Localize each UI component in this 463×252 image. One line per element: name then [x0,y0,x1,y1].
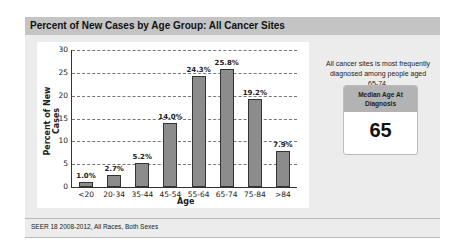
bar [135,163,149,187]
median-age-label: Median Age At Diagnosis [344,86,417,112]
y-tick-label: 5 [56,159,68,168]
bar-value-label: 7.9% [266,141,300,149]
bar [79,182,93,187]
bar-value-label: 5.2% [125,153,159,161]
x-tick-label: >84 [266,190,300,199]
footer: SEER 18 2008-2012, All Races, Both Sexes [25,218,440,238]
footer-source: SEER 18 2008-2012, All Races, Both Sexes [31,223,158,230]
y-tick-label: 15 [56,114,68,123]
y-tick-label: 25 [56,68,68,77]
median-age-box: Median Age At Diagnosis 65 [343,85,418,155]
gridline [72,141,297,142]
median-age-value: 65 [344,119,417,142]
bar [163,123,177,187]
gridline [72,50,297,51]
x-axis-label: Age [177,197,194,206]
bar-value-label: 19.2% [238,89,272,97]
y-tick-label: 20 [56,91,68,100]
bar-value-label: 2.7% [97,165,131,173]
bar-value-label: 1.0% [69,172,103,180]
bar [107,175,121,187]
y-tick-label: 10 [56,136,68,145]
bar-value-label: 14.0% [153,113,187,121]
bar [248,99,262,187]
chart-card: Percent of New Cases by Age Group: All C… [25,17,440,236]
title-bar: Percent of New Cases by Age Group: All C… [25,17,440,35]
chart-title: Percent of New Cases by Age Group: All C… [30,20,285,31]
chart-panel: Percent of New Cases 0510152025301.0%<20… [37,42,309,208]
y-tick-label: 0 [56,182,68,191]
plot-area: 0510152025301.0%<202.7%20-345.2%35-4414.… [71,50,297,188]
bar-value-label: 25.8% [210,59,244,67]
bar [192,76,206,187]
bar [276,151,290,187]
y-tick-label: 30 [56,45,68,54]
bar-value-label: 24.3% [182,66,216,74]
bar [220,69,234,187]
